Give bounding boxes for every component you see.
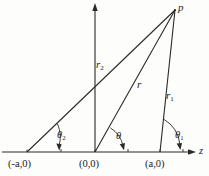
segment-r1: [160, 10, 175, 152]
vertical-axis-arrowhead: [92, 3, 97, 11]
angle-arrowhead-theta: [120, 143, 125, 150]
angle-label-theta2-sub: 2: [62, 134, 65, 141]
segment-label-r1: r1: [166, 90, 174, 103]
axis-point-label-neg-a: (-a,0): [8, 159, 31, 170]
point-p-marker: [174, 9, 176, 11]
angle-label-theta2: θ2: [57, 130, 66, 142]
angle-arrowhead-theta1: [177, 143, 182, 150]
axis-point-label-pos-a: (a,0): [145, 159, 165, 170]
angle-label-theta: θ: [116, 131, 121, 143]
angle-label-theta1-sub: 1: [180, 134, 183, 141]
diagram-canvas: [0, 0, 209, 176]
segment-label-r2-sub: 2: [100, 64, 104, 72]
segment-label-r1-sub: 1: [170, 95, 174, 103]
geometry-diagram: p r2 r r1 θ2 θ θ1 (-a,0) (0,0) (a,0) z: [0, 0, 209, 176]
point-p-label: p: [178, 2, 184, 13]
z-axis-label: z: [199, 146, 203, 157]
angle-label-theta-main: θ: [116, 130, 121, 141]
segment-label-r: r: [137, 79, 141, 92]
angle-label-theta1: θ1: [175, 130, 184, 142]
segment-label-r2: r2: [96, 59, 104, 72]
segment-label-r-main: r: [137, 78, 141, 90]
segment-r2: [27, 10, 175, 152]
segment-r: [95, 10, 175, 152]
axis-point-label-origin: (0,0): [79, 159, 99, 170]
z-axis-arrowhead: [188, 149, 196, 154]
